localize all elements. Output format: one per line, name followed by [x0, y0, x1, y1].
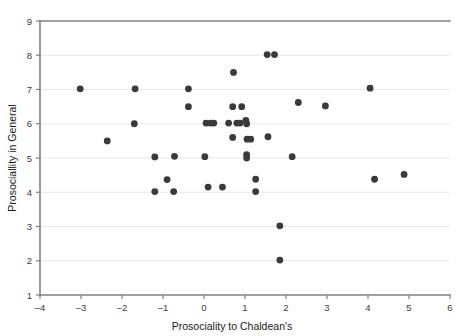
data-point	[229, 134, 236, 141]
data-point	[230, 69, 237, 76]
data-point	[171, 153, 178, 160]
y-tick-label: 2	[27, 255, 32, 266]
x-tick-label: 4	[365, 302, 370, 313]
data-point	[247, 136, 254, 143]
data-point	[164, 176, 171, 183]
x-tick-label: 0	[201, 302, 206, 313]
x-tick-label: 1	[242, 302, 247, 313]
data-point	[229, 103, 236, 110]
data-point	[264, 51, 271, 58]
data-point	[401, 171, 408, 178]
y-tick-label: 8	[27, 50, 32, 61]
data-point	[151, 154, 158, 161]
data-point	[238, 103, 245, 110]
x-axis-title: Prosociality to Chaldean's	[172, 320, 292, 332]
x-tick-label: –1	[158, 302, 169, 313]
data-point	[243, 155, 250, 162]
data-point	[185, 85, 192, 92]
data-point	[295, 99, 302, 106]
y-axis-title: Prosociallity in General	[6, 104, 18, 211]
scatter-plot-canvas: –4–3–2–10123456 123456789 Prosociality t…	[0, 0, 465, 336]
y-tick-label: 3	[27, 221, 32, 232]
x-tick-label: 5	[406, 302, 411, 313]
data-point	[276, 257, 283, 264]
y-tick-label: 5	[27, 153, 32, 164]
y-tick-label: 9	[27, 16, 32, 27]
data-point	[201, 153, 208, 160]
data-point	[170, 188, 177, 195]
x-tick-label: 6	[447, 302, 452, 313]
data-point	[132, 85, 139, 92]
x-tick-label: –4	[35, 302, 46, 313]
y-tick-label: 6	[27, 118, 32, 129]
data-point	[265, 133, 272, 140]
data-point	[322, 103, 329, 110]
figure-background	[0, 0, 465, 336]
data-point	[289, 153, 296, 160]
data-point	[210, 120, 217, 127]
data-point	[271, 51, 278, 58]
data-point	[225, 120, 232, 127]
x-tick-label: –3	[76, 302, 87, 313]
data-point	[243, 120, 250, 127]
data-point	[252, 188, 259, 195]
x-tick-label: 2	[283, 302, 288, 313]
data-point	[104, 137, 111, 144]
data-point	[276, 222, 283, 229]
x-tick-label: –2	[117, 302, 128, 313]
data-point	[77, 85, 84, 92]
y-tick-label: 1	[27, 290, 32, 301]
data-point	[185, 103, 192, 110]
data-point	[367, 85, 374, 92]
scatter-plot-figure: –4–3–2–10123456 123456789 Prosociality t…	[0, 0, 465, 336]
y-axis-tick-labels: 123456789	[27, 16, 32, 301]
data-point	[205, 184, 212, 191]
y-tick-label: 7	[27, 84, 32, 95]
x-tick-label: 3	[324, 302, 329, 313]
data-point	[131, 120, 138, 127]
data-point	[371, 176, 378, 183]
y-tick-label: 4	[27, 187, 32, 198]
data-point	[219, 184, 226, 191]
data-point	[151, 188, 158, 195]
data-point	[252, 176, 259, 183]
